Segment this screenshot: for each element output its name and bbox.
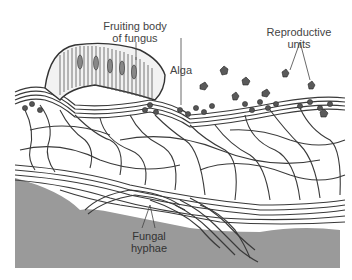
label-reproductive-units: Reproductive units [264,26,334,50]
label-reproductive-line1: Reproductive [264,26,334,38]
medulla-hyphae [20,105,345,200]
fruiting-body [45,43,165,100]
label-fruiting-body-line2: of fungus [100,32,170,44]
label-alga: Alga [170,64,200,76]
label-fungal-hyphae: Fungal hyphae [124,230,174,254]
label-reproductive-line2: units [264,38,334,50]
label-alga-text: Alga [170,64,200,76]
label-hyphae-line1: Fungal [124,230,174,242]
leader-lines [136,38,310,228]
label-fruiting-body-line1: Fruiting body [100,20,170,32]
label-hyphae-line2: hyphae [124,242,174,254]
label-fruiting-body: Fruiting body of fungus [100,20,170,44]
